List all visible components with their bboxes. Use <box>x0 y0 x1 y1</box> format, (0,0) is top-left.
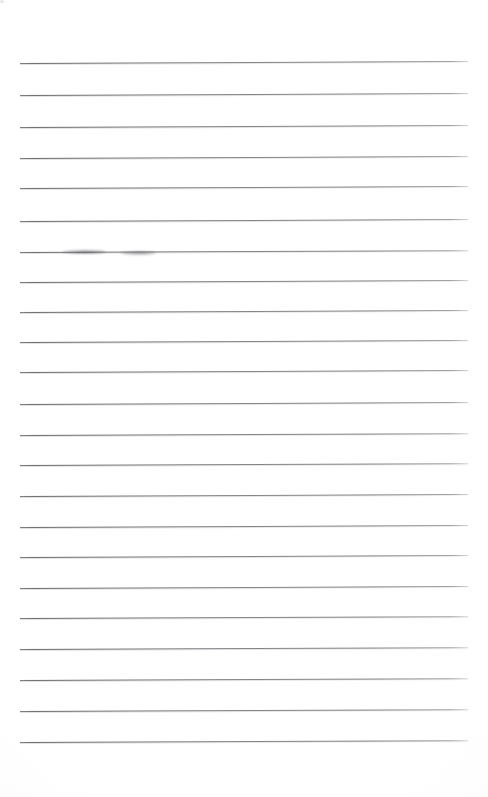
rule-line <box>20 647 468 650</box>
rule-line <box>20 310 468 313</box>
rule-line <box>20 93 468 96</box>
scanned-page: Blank ruled notebook page Scanned sheet … <box>0 0 488 797</box>
rule-line <box>20 709 468 712</box>
rule-line <box>20 678 468 681</box>
rule-line <box>20 494 468 497</box>
rule-line <box>20 125 468 128</box>
rule-line <box>20 555 468 558</box>
rule-line <box>20 525 468 528</box>
rule-line <box>20 156 468 159</box>
rule-line <box>20 186 468 189</box>
rule-line <box>20 402 468 405</box>
rule-line <box>20 370 468 373</box>
rule-line <box>20 586 468 589</box>
rule-line <box>20 280 468 283</box>
rule-line <box>20 340 468 343</box>
rule-line <box>20 61 468 64</box>
rule-line <box>20 219 468 222</box>
rule-line <box>20 740 468 743</box>
rule-line <box>20 616 468 619</box>
rule-line <box>20 463 468 466</box>
rule-line <box>20 433 468 436</box>
ruled-lines-layer <box>0 0 488 797</box>
